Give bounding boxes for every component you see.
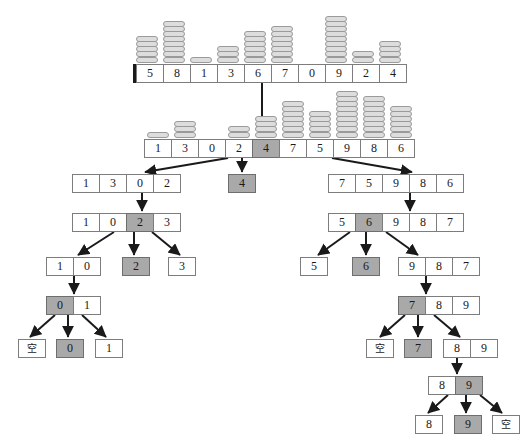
quicksort-recursion-diagram: 5813670924130247598613024759861023569871… xyxy=(0,0,530,447)
tower-block xyxy=(336,132,358,138)
tower-block xyxy=(136,57,158,63)
array-cell: 8 xyxy=(443,339,471,358)
array-node: 10 xyxy=(46,257,101,276)
tree-edge xyxy=(332,158,412,172)
array-cell: 7 xyxy=(452,257,480,276)
array-cell: 3 xyxy=(217,64,245,83)
array-node: 1302 xyxy=(72,174,181,193)
value-tower xyxy=(228,127,250,138)
tower-block xyxy=(244,57,266,63)
empty-cell: 空 xyxy=(492,415,520,434)
array-cell: 1 xyxy=(46,257,74,276)
tower-block xyxy=(190,57,212,63)
value-tower xyxy=(352,52,374,63)
pivot-cell: 0 xyxy=(46,296,74,315)
array-node: 789 xyxy=(398,296,480,315)
value-tower xyxy=(390,107,412,138)
array-node: 987 xyxy=(398,257,480,276)
array-cell: 1 xyxy=(72,174,100,193)
value-tower xyxy=(217,47,239,63)
array-cell: 5 xyxy=(355,174,383,193)
value-tower xyxy=(336,92,358,138)
array-cell: 1 xyxy=(95,339,123,358)
array-cell: 7 xyxy=(271,64,299,83)
array-cell: 1 xyxy=(73,296,101,315)
pivot-cell: 9 xyxy=(454,415,482,434)
tower-block xyxy=(390,132,412,138)
array-cell: 0 xyxy=(99,213,127,232)
tree-edge xyxy=(78,232,114,255)
array-node: 89 xyxy=(428,376,483,395)
empty-cell: 空 xyxy=(366,339,394,358)
tree-edge xyxy=(428,395,448,413)
array-node: 75986 xyxy=(328,174,464,193)
pivot-cell: 4 xyxy=(228,174,256,193)
array-cell: 1 xyxy=(144,139,172,158)
array-node: 1302475986 xyxy=(144,139,415,158)
array-node: 9 xyxy=(454,415,482,434)
value-tower xyxy=(147,132,169,138)
array-node: 7 xyxy=(404,339,432,358)
value-tower xyxy=(244,32,266,63)
value-tower xyxy=(379,42,401,63)
tree-edge xyxy=(152,232,180,255)
array-node: 56987 xyxy=(328,213,464,232)
array-cell: 8 xyxy=(415,415,443,434)
array-cell: 8 xyxy=(360,139,388,158)
tower-block xyxy=(228,132,250,138)
array-node: 4 xyxy=(228,174,256,193)
value-tower xyxy=(136,37,158,63)
array-cell: 8 xyxy=(425,257,453,276)
tree-edge xyxy=(480,395,502,413)
array-cell: 1 xyxy=(72,213,100,232)
tower-block xyxy=(217,57,239,63)
tower-block xyxy=(147,132,169,138)
array-cell: 3 xyxy=(99,174,127,193)
array-node: 6 xyxy=(352,257,380,276)
tree-edge xyxy=(434,315,460,337)
value-tower xyxy=(174,122,196,138)
tree-edge xyxy=(82,315,106,337)
pivot-cell: 6 xyxy=(352,257,380,276)
pivot-cell: 4 xyxy=(252,139,280,158)
tower-block xyxy=(309,132,331,138)
array-cell: 3 xyxy=(171,139,199,158)
array-cell: 4 xyxy=(379,64,407,83)
array-cell: 9 xyxy=(325,64,353,83)
array-cell: 9 xyxy=(452,296,480,315)
array-node: 空 xyxy=(366,339,394,358)
value-tower xyxy=(282,102,304,138)
tree-edge xyxy=(386,232,418,255)
array-cell: 5 xyxy=(136,64,164,83)
array-cell: 3 xyxy=(153,213,181,232)
array-cell: 5 xyxy=(300,257,328,276)
tower-block xyxy=(352,57,374,63)
pivot-cell: 7 xyxy=(404,339,432,358)
array-node: 空 xyxy=(492,415,520,434)
value-tower xyxy=(190,57,212,63)
array-cell: 9 xyxy=(382,174,410,193)
array-node: 89 xyxy=(443,339,498,358)
tower-block xyxy=(379,57,401,63)
tower-block xyxy=(255,132,277,138)
array-cell: 2 xyxy=(225,139,253,158)
tree-edge xyxy=(318,232,350,255)
tower-block xyxy=(163,57,185,63)
empty-cell: 空 xyxy=(18,339,46,358)
array-cell: 8 xyxy=(428,376,456,395)
array-cell: 0 xyxy=(198,139,226,158)
array-cell: 2 xyxy=(352,64,380,83)
array-cell: 2 xyxy=(153,174,181,193)
array-cell: 5 xyxy=(306,139,334,158)
array-cell: 5 xyxy=(328,213,356,232)
value-tower xyxy=(163,22,185,63)
array-cell: 9 xyxy=(382,213,410,232)
array-cell: 7 xyxy=(436,213,464,232)
value-tower xyxy=(255,117,277,138)
array-cell: 6 xyxy=(436,174,464,193)
tree-edge xyxy=(145,158,228,172)
array-cell: 6 xyxy=(244,64,272,83)
array-node: 01 xyxy=(46,296,101,315)
array-cell: 8 xyxy=(409,213,437,232)
tree-edge xyxy=(380,315,405,337)
